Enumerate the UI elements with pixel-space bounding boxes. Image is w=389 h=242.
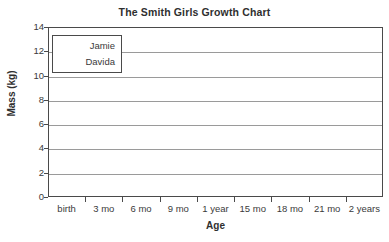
y-axis-tick-mark: [44, 124, 48, 125]
y-axis-tick-mark: [44, 27, 48, 28]
y-axis-title: Mass (kg): [6, 62, 17, 126]
y-axis-tick-label: 10: [22, 71, 44, 81]
gridline: [49, 149, 382, 150]
y-axis-tick-label: 12: [22, 47, 44, 57]
x-axis-tick-label: 15 mo: [240, 203, 266, 214]
y-axis-tick-label: 14: [22, 22, 44, 32]
x-axis-tick-mark: [85, 197, 86, 202]
x-axis-tick-mark: [122, 197, 123, 202]
x-axis-tick-label: 21 mo: [314, 203, 340, 214]
y-axis-tick-mark: [44, 51, 48, 52]
y-axis-tick-label: 4: [22, 144, 44, 154]
x-axis-tick-mark: [234, 197, 235, 202]
y-axis-tick-mark: [44, 100, 48, 101]
x-axis-tick-mark: [346, 197, 347, 202]
y-axis-tick-label: 6: [22, 119, 44, 129]
x-axis-tick-label: 18 mo: [277, 203, 303, 214]
gridline: [49, 174, 382, 175]
x-axis-tick-label: 1 year: [202, 203, 228, 214]
legend-entry-davida: Davida: [53, 54, 115, 70]
y-axis-tick-mark: [44, 173, 48, 174]
x-axis-tick-label: 6 mo: [130, 203, 151, 214]
gridline: [49, 101, 382, 102]
growth-chart: The Smith Girls Growth Chart Mass (kg) 0…: [0, 0, 389, 242]
x-axis-title: Age: [48, 220, 383, 231]
y-axis-tick-label: 0: [22, 192, 44, 202]
y-axis-tick-mark: [44, 76, 48, 77]
legend-entry-jamie: Jamie: [53, 38, 115, 54]
chart-legend: Jamie Davida: [52, 35, 122, 73]
y-axis-tick-label: 8: [22, 95, 44, 105]
y-axis-tick-labels: 02468101214: [18, 27, 44, 197]
gridline: [49, 125, 382, 126]
y-axis-tick-mark: [44, 148, 48, 149]
x-axis-tick-label: 3 mo: [93, 203, 114, 214]
x-axis-tick-mark: [197, 197, 198, 202]
x-axis-tick-label: 9 mo: [168, 203, 189, 214]
x-axis-tick-label: birth: [57, 203, 75, 214]
x-axis-tick-mark: [160, 197, 161, 202]
y-axis-tick-mark: [44, 197, 48, 198]
gridline: [49, 77, 382, 78]
y-axis-tick-label: 2: [22, 168, 44, 178]
x-axis-tick-mark: [309, 197, 310, 202]
x-axis-tick-mark: [271, 197, 272, 202]
chart-title: The Smith Girls Growth Chart: [0, 6, 389, 18]
x-axis-tick-label: 2 years: [349, 203, 380, 214]
